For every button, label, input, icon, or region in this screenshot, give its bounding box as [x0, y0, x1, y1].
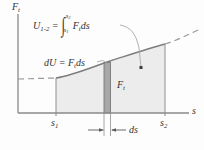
- leader-endpoint-dot: [140, 66, 143, 69]
- ds-arrow-right-head: [111, 128, 116, 132]
- ds-arrow-left-head: [99, 128, 104, 132]
- differential-strip: [104, 63, 111, 114]
- equation-work-equals: =: [52, 20, 59, 31]
- curve-dashed-extension-right: [165, 29, 200, 44]
- strip-width-label: ds: [129, 125, 138, 135]
- tick-label-s1-subscript: 1: [55, 122, 58, 129]
- tick-label-s2: s2: [160, 118, 167, 129]
- figure-canvas: [0, 0, 204, 150]
- y-axis-label: Ft: [12, 2, 20, 13]
- equation-dwork-differential: ds: [76, 57, 85, 68]
- strip-height-label: Ft: [117, 80, 125, 91]
- equation-work-lhs-subscript: 1-2: [40, 25, 49, 32]
- tick-label-s1: s1: [51, 118, 58, 129]
- x-axis-label: s: [192, 106, 196, 116]
- equation-work-integral: U1-2 = ∫s2s1Ftds: [33, 17, 90, 34]
- equation-work-differential: ds: [81, 20, 90, 31]
- tick-label-s2-subscript: 2: [164, 122, 167, 129]
- integral-limits: s2s1: [66, 20, 73, 30]
- equation-dwork-equals: =: [59, 57, 66, 68]
- work-energy-figure: Ft s U1-2 = ∫s2s1Ftds dU = Ftds Ft s1 s2…: [0, 0, 204, 150]
- integral-lower-limit: s1: [64, 27, 69, 35]
- curve-dashed-projection-left: [18, 78, 56, 79]
- equation-differential-work: dU = Ftds: [44, 58, 85, 69]
- strip-height-label-subscript: t: [123, 84, 125, 91]
- equation-dwork-lhs: dU: [44, 57, 56, 68]
- integral-upper-limit: s2: [66, 13, 71, 21]
- y-axis-label-subscript: t: [18, 6, 20, 13]
